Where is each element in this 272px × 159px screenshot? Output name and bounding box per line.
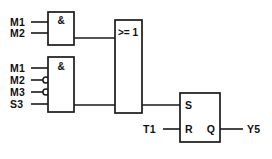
input-label-and2-s3: S3 [10,98,23,110]
input-label-and2-m3: M3 [10,86,25,98]
flipflop-output-pin-label: Q [207,123,215,135]
input-label-and2-m2: M2 [10,74,25,86]
input-label-and2-m1: M1 [10,62,25,74]
logic-diagram: M1 M2 & M1 M2 M3 S3 & >= 1 S R Q T1 [0,0,272,159]
output-label-y5: Y5 [247,123,260,135]
input-label-and1-m2: M2 [10,27,25,39]
and-gate-2-symbol: & [57,61,64,72]
logic-diagram-canvas: M1 M2 & M1 M2 M3 S3 & >= 1 S R Q T1 [0,0,272,159]
or-gate-symbol: >= 1 [118,27,138,38]
and-gate-1-symbol: & [57,15,64,26]
flipflop-reset-pin-label: R [185,123,193,135]
flipflop-set-pin-label: S [185,99,192,111]
input-label-t1: T1 [143,123,156,135]
